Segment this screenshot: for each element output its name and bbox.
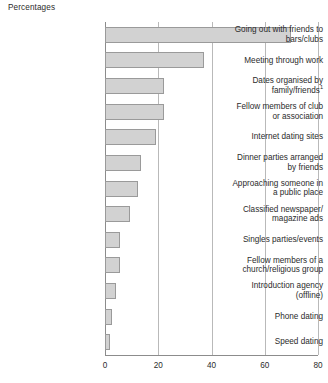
category-label: Meeting through work [228, 56, 328, 66]
category-label: Singles parties/events [228, 235, 328, 245]
bar [105, 104, 164, 120]
bar [105, 309, 112, 325]
category-label: Approaching someone ina public place [228, 179, 328, 198]
category-label: Fellow members of achurch/religious grou… [228, 256, 328, 275]
category-label-line: Introduction agency [228, 281, 323, 291]
bar [105, 78, 164, 94]
category-label: Speed dating [228, 337, 328, 347]
category-label: Dates organised byfamily/friends1 [228, 76, 328, 95]
category-label-line: Going out with friends to [228, 25, 323, 35]
category-label-line: Fellow members of club [228, 102, 323, 112]
category-label-line: Classified newspaper/ [228, 205, 323, 215]
bar [105, 232, 120, 248]
category-label-line: Singles parties/events [228, 235, 323, 245]
gridline-20 [158, 22, 159, 355]
category-label: Classified newspaper/magazine ads [228, 205, 328, 224]
x-axis-line [105, 355, 318, 356]
category-label-line: Fellow members of a [228, 256, 323, 266]
x-tick-label: 20 [154, 361, 163, 370]
bar [105, 181, 138, 197]
x-tick-label: 0 [103, 361, 108, 370]
footnote-marker: 1 [320, 84, 323, 90]
bar [105, 206, 130, 222]
category-label-line: Dates organised by [228, 76, 323, 86]
x-tick-label: 80 [313, 361, 322, 370]
bar [105, 283, 116, 299]
category-label-line: Phone dating [228, 312, 323, 322]
bar [105, 52, 204, 68]
category-label-line: Internet dating sites [228, 132, 323, 142]
bar [105, 155, 141, 171]
category-label-line: church/religious group [228, 265, 323, 275]
category-label-line: family/friends1 [228, 86, 323, 96]
category-label-line: Speed dating [228, 337, 323, 347]
bar-chart: Percentages 020406080 Going out with fri… [0, 0, 328, 383]
category-label-line: Approaching someone in [228, 179, 323, 189]
category-label: Dinner parties arrangedby friends [228, 153, 328, 172]
category-label: Fellow members of clubor association [228, 102, 328, 121]
category-label: Introduction agency(offline) [228, 281, 328, 300]
category-label-line: by friends [228, 163, 323, 173]
x-tick-label: 40 [207, 361, 216, 370]
category-label-line: magazine ads [228, 214, 323, 224]
bar [105, 257, 120, 273]
category-label: Phone dating [228, 312, 328, 322]
bar [105, 334, 110, 350]
category-label: Internet dating sites [228, 132, 328, 142]
x-tick-label: 60 [260, 361, 269, 370]
category-label-line: or association [228, 112, 323, 122]
category-label-line: Dinner parties arranged [228, 153, 323, 163]
gridline-40 [212, 22, 213, 355]
category-label-line: bars/clubs [228, 35, 323, 45]
chart-title: Percentages [8, 3, 55, 12]
category-label-line: a public place [228, 188, 323, 198]
category-label-line: (offline) [228, 291, 323, 301]
category-label: Going out with friends tobars/clubs [228, 25, 328, 44]
category-label-line: Meeting through work [228, 56, 323, 66]
bar [105, 129, 156, 145]
